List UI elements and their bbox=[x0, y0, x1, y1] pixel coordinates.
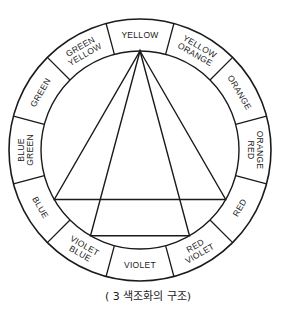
segment-label-green: GREEN bbox=[28, 76, 53, 108]
segment-label-line: VIOLET bbox=[124, 260, 156, 270]
segment-label-line: YELLOW bbox=[121, 30, 158, 40]
segment-divider bbox=[106, 23, 114, 54]
segment-divider bbox=[166, 246, 174, 277]
segment-label-line: BLUE bbox=[30, 195, 50, 220]
harmony-triangles bbox=[54, 51, 225, 236]
segment-label-red: RED bbox=[231, 197, 249, 218]
segment-divider bbox=[166, 23, 174, 54]
segment-labels: YELLOWYELLOWORANGEORANGEORANGEREDREDREDV… bbox=[16, 30, 265, 270]
segment-divider bbox=[236, 116, 267, 124]
wheel-dividers bbox=[13, 23, 266, 276]
segment-label-line: RED bbox=[246, 141, 256, 160]
segment-divider bbox=[47, 220, 70, 243]
color-wheel-diagram: YELLOWYELLOWORANGEORANGEORANGEREDREDREDV… bbox=[0, 0, 281, 312]
segment-label-orange-red: ORANGERED bbox=[246, 131, 265, 170]
segment-divider bbox=[13, 116, 44, 124]
segment-label-violet: VIOLET bbox=[124, 260, 156, 270]
segment-divider bbox=[210, 220, 233, 243]
segment-divider bbox=[106, 246, 114, 277]
primary-triad bbox=[54, 51, 225, 200]
segment-label-line: RED bbox=[231, 197, 249, 218]
segment-label-green-yellow: GREENYELLOW bbox=[62, 33, 104, 68]
segment-label-line: GREEN bbox=[28, 76, 53, 108]
segment-label-yellow: YELLOW bbox=[121, 30, 158, 40]
segment-label-blue-green: BLUEGREEN bbox=[16, 134, 35, 166]
segment-divider bbox=[236, 176, 267, 184]
figure-caption: ( 3 색조화의 구조) bbox=[0, 287, 281, 303]
split-triad bbox=[91, 51, 190, 236]
inner-ring bbox=[41, 51, 239, 249]
segment-label-yellow-orange: YELLOWORANGE bbox=[176, 33, 219, 69]
segment-label-blue: BLUE bbox=[30, 195, 50, 220]
segment-label-line: GREEN bbox=[25, 134, 35, 166]
segment-divider bbox=[13, 176, 44, 184]
